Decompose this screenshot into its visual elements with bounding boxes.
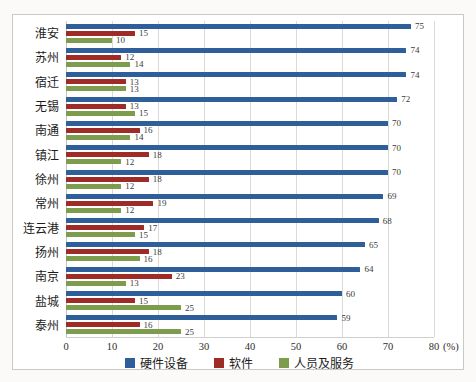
bar-line: 16 (66, 322, 461, 327)
bar-value-label: 15 (139, 30, 148, 36)
bar-value-label: 16 (144, 256, 153, 262)
bar-value-label: 14 (134, 61, 143, 67)
bar-line: 17 (66, 225, 461, 230)
bar-line: 69 (66, 194, 461, 199)
bar-value-label: 69 (387, 193, 396, 199)
bar-line: 70 (66, 145, 461, 150)
bar-group: 691912 (66, 194, 461, 213)
bar-value-label: 12 (125, 207, 134, 213)
bar-value-label: 12 (125, 159, 134, 165)
bar-硬件设备 (66, 170, 388, 175)
bar-line: 70 (66, 170, 461, 175)
bar-row-8: 常州691912 (13, 191, 461, 215)
bar-value-label: 13 (130, 103, 139, 109)
bar-line: 13 (66, 104, 461, 109)
legend-item-services: 人员及服务 (279, 354, 354, 372)
bar-软件 (66, 298, 135, 303)
bar-value-label: 16 (144, 127, 153, 133)
bar-row-6: 镇江701812 (13, 143, 461, 167)
bar-group: 642313 (66, 267, 461, 286)
bar-group: 591625 (66, 315, 461, 334)
bar-软件 (66, 225, 144, 230)
bar-软件 (66, 322, 140, 327)
bar-line: 13 (66, 79, 461, 84)
bar-value-label: 59 (341, 315, 350, 321)
bar-硬件设备 (66, 48, 406, 53)
bar-group: 681715 (66, 218, 461, 237)
bar-硬件设备 (66, 315, 337, 320)
bar-row-2: 苏州741214 (13, 45, 461, 69)
bar-line: 16 (66, 256, 461, 261)
bar-row-10: 扬州651816 (13, 240, 461, 264)
bar-line: 68 (66, 218, 461, 223)
bar-人员及服务 (66, 305, 181, 310)
bar-value-label: 74 (410, 47, 419, 53)
bar-硬件设备 (66, 218, 379, 223)
bar-line: 65 (66, 242, 461, 247)
bar-value-label: 25 (185, 329, 194, 335)
bar-人员及服务 (66, 232, 135, 237)
x-axis-unit-label: (%) (443, 341, 459, 352)
bar-人员及服务 (66, 62, 130, 67)
bar-value-label: 13 (130, 280, 139, 286)
bar-value-label: 74 (410, 72, 419, 78)
legend-item-software: 软件 (214, 354, 253, 372)
bar-line: 15 (66, 298, 461, 303)
x-axis-labels: (%) 01020304050607080 (13, 341, 465, 355)
category-label: 泰州 (13, 316, 66, 334)
bar-软件 (66, 201, 153, 206)
bar-人员及服务 (66, 208, 121, 213)
bar-硬件设备 (66, 97, 397, 102)
category-label: 扬州 (13, 243, 66, 261)
bar-value-label: 23 (176, 273, 185, 279)
bar-row-5: 南通701614 (13, 118, 461, 142)
bar-line: 16 (66, 128, 461, 133)
bar-value-label: 68 (383, 218, 392, 224)
bar-人员及服务 (66, 111, 135, 116)
bar-value-label: 15 (139, 110, 148, 116)
category-label: 盐城 (13, 292, 66, 310)
bar-value-label: 72 (401, 96, 410, 102)
bar-软件 (66, 79, 126, 84)
bar-软件 (66, 152, 149, 157)
bar-value-label: 75 (415, 23, 424, 29)
bar-value-label: 18 (153, 152, 162, 158)
bar-value-label: 70 (392, 145, 401, 151)
bar-硬件设备 (66, 194, 383, 199)
legend: 硬件设备 软件 人员及服务 (13, 354, 465, 372)
bar-软件 (66, 249, 149, 254)
bar-line: 59 (66, 315, 461, 320)
bar-group: 741313 (66, 72, 461, 91)
bar-value-label: 14 (134, 134, 143, 140)
bar-硬件设备 (66, 145, 388, 150)
bar-value-label: 18 (153, 249, 162, 255)
bar-人员及服务 (66, 38, 112, 43)
bar-value-label: 70 (392, 169, 401, 175)
bar-group: 741214 (66, 48, 461, 67)
bar-value-label: 12 (125, 54, 134, 60)
bar-人员及服务 (66, 135, 130, 140)
bar-value-label: 65 (369, 242, 378, 248)
bar-硬件设备 (66, 72, 406, 77)
bar-value-label: 25 (185, 305, 194, 311)
legend-swatch-services (279, 358, 289, 368)
bar-软件 (66, 104, 126, 109)
bar-人员及服务 (66, 256, 140, 261)
bar-row-3: 宿迁741313 (13, 70, 461, 94)
bar-硬件设备 (66, 242, 365, 247)
x-tick-label-10: 10 (107, 341, 118, 352)
category-label: 徐州 (13, 170, 66, 188)
x-tick-label-60: 60 (337, 341, 348, 352)
bar-row-13: 泰州591625 (13, 313, 461, 337)
legend-label-services: 人员及服务 (294, 354, 354, 372)
bar-value-label: 15 (139, 232, 148, 238)
bar-软件 (66, 128, 140, 133)
bar-row-4: 无锡721315 (13, 94, 461, 118)
bar-line: 13 (66, 86, 461, 91)
bar-value-label: 18 (153, 176, 162, 182)
bar-line: 12 (66, 55, 461, 60)
bar-value-label: 64 (364, 266, 373, 272)
bar-group: 601525 (66, 291, 461, 310)
bar-软件 (66, 177, 149, 182)
bar-人员及服务 (66, 159, 121, 164)
